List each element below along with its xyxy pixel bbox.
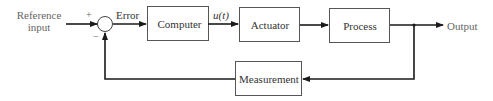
reference-input-label-line2: input: [14, 21, 64, 33]
plus-sign: +: [86, 9, 92, 21]
summing-junction: [98, 17, 113, 32]
block-diagram: Reference input + − Error Computer u(t) …: [0, 0, 493, 101]
output-label: Output: [447, 20, 478, 32]
reference-input-label: Reference input: [14, 9, 64, 33]
control-signal-label: u(t): [213, 9, 229, 21]
computer-label: Computer: [149, 18, 210, 30]
minus-sign: −: [93, 31, 99, 43]
diagram-lines: [0, 0, 493, 101]
process-label: Process: [330, 20, 390, 32]
error-label: Error: [116, 9, 139, 21]
reference-input-label-line1: Reference: [14, 9, 64, 21]
actuator-label: Actuator: [240, 19, 300, 31]
measurement-label: Measurement: [236, 73, 302, 85]
